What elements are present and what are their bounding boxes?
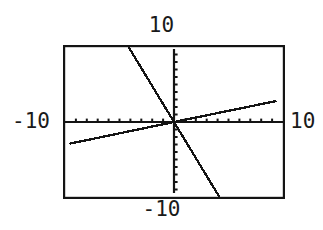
y-axis-max-label: 10: [0, 15, 323, 36]
x-axis-min-label: -10: [12, 111, 50, 132]
plot-canvas: [63, 45, 285, 199]
plot-area: [63, 45, 285, 199]
y-axis-min-label: -10: [0, 199, 323, 220]
x-axis-max-label: 10: [290, 111, 315, 132]
graph-figure: 10 -10 10 -10: [0, 0, 323, 230]
